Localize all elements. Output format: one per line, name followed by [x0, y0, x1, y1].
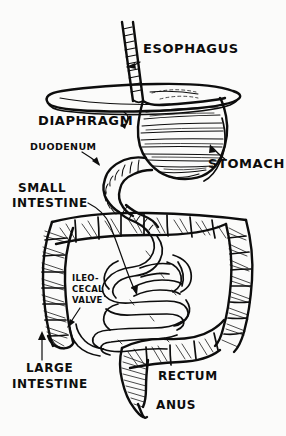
label-diaphragm: DIAPHRAGM [38, 113, 133, 128]
label-ileocecal-valve-2: CECAL [72, 284, 104, 294]
label-stomach: STOMACH [208, 156, 285, 171]
label-large-intestine-2: INTESTINE [12, 377, 88, 391]
label-small-intestine-2: INTESTINE [12, 196, 88, 210]
label-rectum: RECTUM [158, 369, 218, 383]
large-intestine-pointer-arrow [38, 331, 46, 360]
label-small-intestine-1: SMALL [18, 181, 66, 195]
label-ileocecal-valve-3: VALVE [72, 295, 103, 305]
duodenum-curve [103, 157, 158, 233]
label-ileocecal-valve-1: ILEO- [72, 273, 99, 283]
digestive-system-figure: ESOPHAGUS DIAPHRAGM DUODENUM STOMACH SMA… [0, 0, 286, 436]
label-large-intestine-1: LARGE [26, 361, 73, 375]
digestive-system-illustration: ESOPHAGUS DIAPHRAGM DUODENUM STOMACH SMA… [0, 0, 286, 436]
label-anus: ANUS [156, 398, 196, 412]
label-group: ESOPHAGUS DIAPHRAGM DUODENUM STOMACH SMA… [12, 41, 285, 412]
label-esophagus: ESOPHAGUS [143, 41, 239, 56]
duodenum-pointer-arrow [82, 152, 100, 166]
label-duodenum: DUODENUM [30, 141, 96, 152]
